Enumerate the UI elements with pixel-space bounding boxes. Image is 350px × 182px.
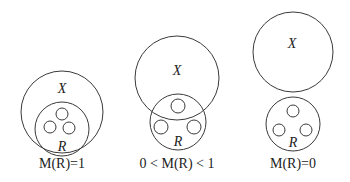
- caption: M(R)=1: [39, 156, 85, 172]
- r-label: R: [57, 139, 67, 154]
- element-circle: [154, 120, 168, 134]
- element-circle: [44, 121, 56, 133]
- caption: M(R)=0: [270, 156, 316, 172]
- set-x-circle: [253, 12, 333, 92]
- diagram-disjoint: X R M(R)=0: [253, 12, 333, 172]
- diagram-full-inclusion: X R M(R)=1: [21, 71, 103, 172]
- element-circle: [300, 124, 312, 136]
- element-circle: [273, 124, 285, 136]
- x-label: X: [172, 63, 182, 78]
- r-label: R: [288, 135, 298, 150]
- x-label: X: [287, 36, 297, 51]
- element-circle: [56, 108, 68, 120]
- element-circle: [171, 99, 185, 113]
- diagram-partial-overlap: X R 0 < M(R) < 1: [135, 36, 219, 172]
- element-circle: [287, 105, 299, 117]
- element-circle: [63, 122, 75, 134]
- r-label: R: [173, 134, 183, 149]
- element-circle: [187, 120, 201, 134]
- caption: 0 < M(R) < 1: [140, 156, 215, 172]
- set-x-circle: [135, 36, 219, 120]
- x-label: X: [57, 81, 67, 96]
- rough-set-membership-diagram: X R M(R)=1 X R 0 < M(R) < 1 X R M(R)=0: [0, 0, 350, 182]
